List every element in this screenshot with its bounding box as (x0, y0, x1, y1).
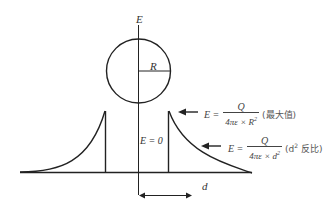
note-suffix: 反比) (298, 144, 322, 154)
formula-lhs: E = (204, 109, 219, 120)
exponent: 2 (254, 116, 257, 122)
fraction: Q 4πε × d2 (247, 135, 282, 161)
inverse-note: (d2 反比) (285, 142, 322, 155)
max-arrow-head (178, 109, 186, 116)
denominator: 4πε × d2 (247, 146, 282, 161)
inverse-square-formula: E = Q 4πε × d2 (d2 反比) (228, 135, 322, 161)
inverse-arrow-head (201, 143, 209, 150)
numerator: Q (259, 135, 270, 146)
max-note: (最大值) (262, 108, 296, 121)
left-field-curve (20, 111, 105, 172)
formula-lhs: E = (228, 143, 243, 154)
distance-label: d (202, 181, 208, 192)
exponent: 2 (277, 150, 280, 156)
max-field-formula: E = Q 4πε × R2 (最大值) (204, 101, 296, 127)
denominator: 4πε × R2 (223, 112, 259, 127)
radius-label: R (150, 61, 157, 72)
distance-arrow-left-head (139, 193, 145, 199)
fraction: Q 4πε × R2 (223, 101, 259, 127)
denominator-text: 4πε × d (249, 151, 277, 161)
denominator-text: 4πε × R (225, 117, 254, 127)
inside-field-label: E = 0 (140, 136, 163, 146)
distance-arrow-right-head (186, 193, 192, 199)
e-axis-label: E (136, 14, 143, 25)
note-prefix: (d (285, 144, 294, 154)
numerator: Q (236, 101, 247, 112)
